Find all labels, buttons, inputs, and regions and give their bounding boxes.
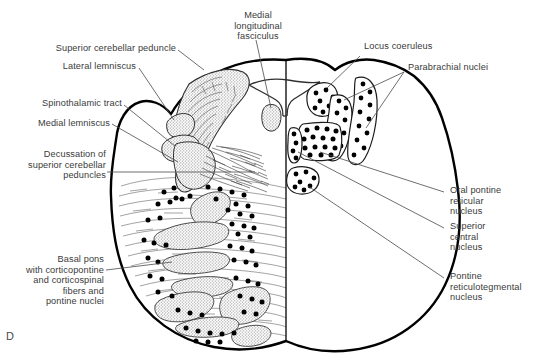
leader-superior-cerebellar-peduncle xyxy=(178,50,204,70)
medial-lemniscus xyxy=(173,142,215,189)
figure-canvas: Superior cerebellar peduncle Lateral lem… xyxy=(0,0,557,362)
label-spinothalamic-tract: Spinothalamic tract xyxy=(24,98,122,109)
label-medial-lemniscus: Medial lemniscus xyxy=(24,118,110,129)
label-decussation-superior-cerebellar-peduncles: Decussation of superior cerebellar pedun… xyxy=(16,149,106,181)
panel-letter: D xyxy=(6,330,14,342)
label-superior-central-nucleus: Superior central nucleus xyxy=(450,221,550,253)
label-lateral-lemniscus: Lateral lemniscus xyxy=(24,61,136,72)
medial-longitudinal-fasciculus xyxy=(262,104,281,131)
label-medial-longitudinal-fasciculus: Medial longitudinal fasciculus xyxy=(222,10,294,42)
superior-central-nucleus xyxy=(288,128,302,163)
label-oral-pontine-reticular-nucleus: Oral pontine reticular nucleus xyxy=(450,185,550,217)
label-locus-coeruleus: Locus coeruleus xyxy=(364,41,474,52)
pons-cross-section-svg xyxy=(0,0,557,362)
label-parabrachial-nuclei: Parabrachial nuclei xyxy=(408,62,528,73)
label-basal-pons: Basal pons with corticopontine and corti… xyxy=(12,254,104,307)
label-pontine-reticulotegmental-nucleus: Pontine reticulotegmental nucleus xyxy=(450,271,554,303)
label-superior-cerebellar-peduncle: Superior cerebellar peduncle xyxy=(24,43,176,54)
